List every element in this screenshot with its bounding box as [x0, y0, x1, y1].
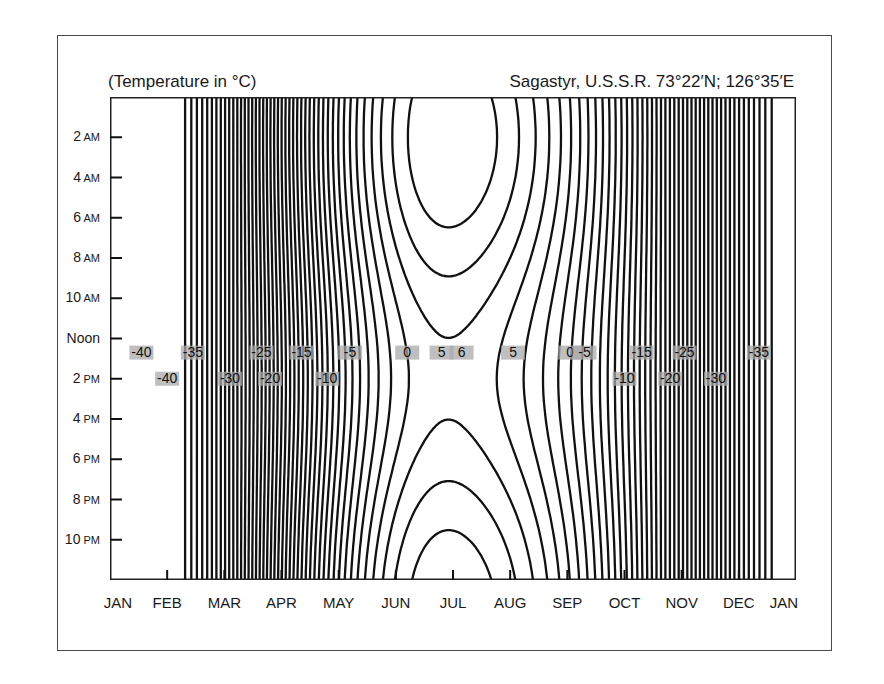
- x-tick-label: MAY: [323, 594, 354, 611]
- contour-label: -25: [674, 344, 694, 360]
- y-tick-label: 6 PM: [73, 450, 100, 466]
- x-tick-label: APR: [266, 594, 297, 611]
- contour-label: -40: [157, 370, 177, 386]
- contour-label: -10: [614, 370, 634, 386]
- contour-label: -40: [131, 344, 151, 360]
- contour-label: -10: [317, 370, 337, 386]
- y-tick-label: Noon: [67, 330, 100, 346]
- contour-label: -35: [749, 344, 769, 360]
- y-tick-label: 8 AM: [73, 249, 100, 265]
- x-tick-label: JAN: [770, 594, 798, 611]
- contour-label: 5: [438, 344, 446, 360]
- x-tick-label: OCT: [609, 594, 641, 611]
- contour-label: -30: [220, 370, 240, 386]
- chart-title: Sagastyr, U.S.S.R. 73°22′N; 126°35′E: [509, 72, 794, 92]
- contour-label: -35: [183, 344, 203, 360]
- x-tick-label: DEC: [723, 594, 755, 611]
- contour-label: -25: [251, 344, 271, 360]
- x-tick-label: SEP: [552, 594, 582, 611]
- y-tick-label: 2 AM: [73, 128, 100, 144]
- contour-label: -5: [344, 344, 357, 360]
- y-tick-label: 4 AM: [73, 169, 100, 185]
- x-tick-label: MAR: [208, 594, 241, 611]
- x-tick-label: JUL: [440, 594, 467, 611]
- contour-label: 5: [509, 344, 517, 360]
- x-tick-label: JAN: [104, 594, 132, 611]
- contour-label: -15: [291, 344, 311, 360]
- contour-label: 0: [403, 344, 411, 360]
- y-tick-label: 2 PM: [73, 370, 100, 386]
- contour-label: -15: [632, 344, 652, 360]
- contour-label: -20: [260, 370, 280, 386]
- y-tick-label: 4 PM: [73, 410, 100, 426]
- y-tick-label: 8 PM: [73, 491, 100, 507]
- x-tick-label: AUG: [494, 594, 527, 611]
- contour-plot-area: -40-35-25-15-505650-5-15-25-35-40-30-20-…: [110, 97, 796, 580]
- y-tick-label: 10 AM: [65, 289, 100, 305]
- contour-label: -5: [578, 344, 591, 360]
- x-tick-label: NOV: [665, 594, 698, 611]
- y-tick-label: 10 PM: [65, 531, 100, 547]
- y-tick-label: 6 AM: [73, 209, 100, 225]
- contour-label: -30: [706, 370, 726, 386]
- chart-subtitle: (Temperature in °C): [108, 72, 257, 92]
- contour-label: -20: [660, 370, 680, 386]
- contour-label: 6: [458, 344, 466, 360]
- x-tick-label: FEB: [153, 594, 182, 611]
- x-tick-label: JUN: [381, 594, 410, 611]
- contour-plot: -40-35-25-15-505650-5-15-25-35-40-30-20-…: [110, 97, 796, 580]
